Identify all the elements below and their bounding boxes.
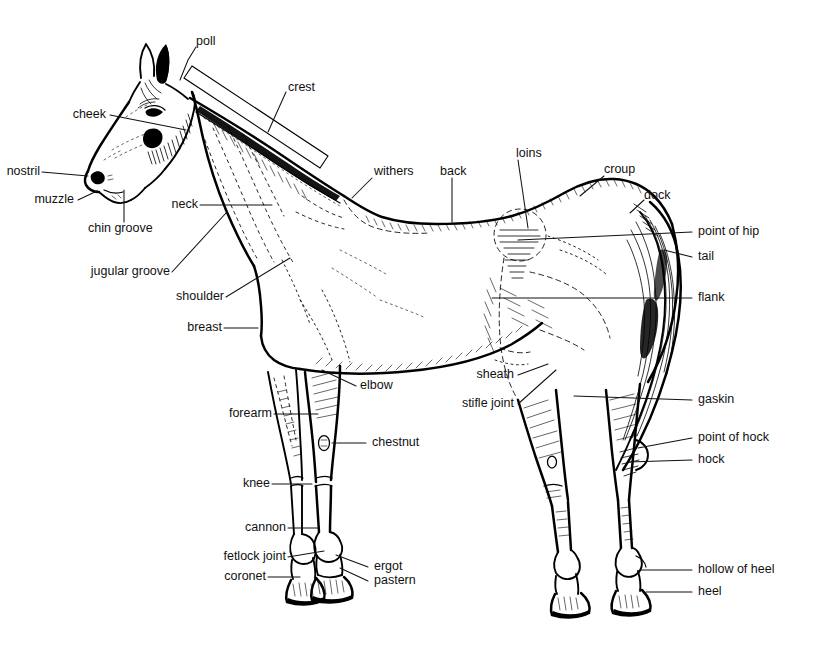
label-shoulder: shoulder — [176, 289, 224, 303]
label-stifle-joint: stifle joint — [462, 396, 515, 410]
label-point-of-hock: point of hock — [698, 430, 770, 444]
background — [0, 0, 826, 650]
label-croup: croup — [604, 162, 635, 176]
label-sheath: sheath — [476, 367, 514, 381]
label-flank: flank — [698, 290, 725, 304]
label-heel: heel — [698, 584, 722, 598]
label-dock: dock — [644, 188, 671, 202]
label-hollow-of-heel: hollow of heel — [698, 562, 774, 576]
label-gaskin: gaskin — [698, 392, 734, 406]
label-coronet: coronet — [224, 569, 266, 583]
horse-anatomy-diagram: poll crest cheek nostril muzzle chin gro… — [0, 0, 826, 650]
label-cheek: cheek — [73, 107, 107, 121]
label-chestnut: chestnut — [372, 435, 420, 449]
diagram-canvas: poll crest cheek nostril muzzle chin gro… — [0, 0, 826, 650]
label-knee: knee — [243, 476, 270, 490]
label-chin-groove: chin groove — [88, 221, 153, 235]
label-muzzle: muzzle — [34, 192, 74, 206]
label-back: back — [440, 164, 467, 178]
label-poll: poll — [196, 34, 215, 48]
label-tail: tail — [698, 249, 714, 263]
label-loins: loins — [516, 146, 542, 160]
label-pastern: pastern — [374, 573, 416, 587]
label-cannon: cannon — [245, 520, 286, 534]
label-withers: withers — [373, 164, 414, 178]
label-nostril: nostril — [7, 164, 40, 178]
label-jugular-groove: jugular groove — [90, 264, 170, 278]
label-crest: crest — [288, 80, 316, 94]
label-elbow: elbow — [360, 378, 394, 392]
label-breast: breast — [187, 320, 222, 334]
label-hock: hock — [698, 452, 725, 466]
label-point-of-hip: point of hip — [698, 224, 759, 238]
label-forearm: forearm — [229, 406, 272, 420]
label-ergot: ergot — [374, 559, 403, 573]
label-fetlock-joint: fetlock joint — [223, 549, 286, 563]
label-neck: neck — [172, 197, 199, 211]
